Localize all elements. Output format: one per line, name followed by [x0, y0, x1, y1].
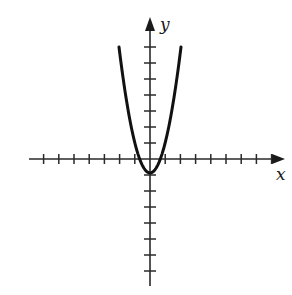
- y-axis-arrow-icon: [145, 17, 155, 31]
- x-axis-arrow-icon: [272, 154, 285, 164]
- y-axis: [144, 17, 156, 286]
- x-axis-label: x: [276, 164, 286, 184]
- y-axis-label: y: [159, 14, 170, 34]
- x-axis: [29, 154, 285, 164]
- parabola-graph: y x: [0, 0, 292, 295]
